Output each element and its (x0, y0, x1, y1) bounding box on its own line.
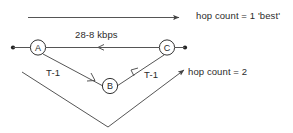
link-a-c (46, 45, 159, 51)
diagram-canvas: A B C hop count = 1 'best' hop count = 2… (0, 0, 293, 133)
node-a-label: A (31, 41, 45, 55)
hop-count-2-label: hop count = 2 (188, 67, 247, 77)
node-c-label: C (160, 41, 174, 55)
link-speed-label: 28-8 kbps (75, 30, 118, 40)
hop-count-1-label: hop count = 1 'best' (196, 11, 280, 21)
link-t1-right-label: T-1 (144, 70, 158, 80)
link-t1-left-label: T-1 (46, 68, 60, 78)
node-b-label: B (103, 79, 117, 93)
